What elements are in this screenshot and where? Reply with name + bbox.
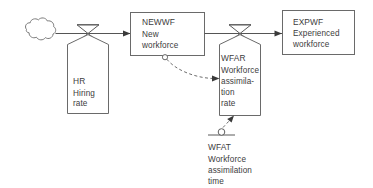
constant-label-wfat-name-line3: time xyxy=(208,177,224,187)
stock-label-newwf-code: NEWWF xyxy=(142,17,175,27)
rate-label-hr-name-line2: rate xyxy=(73,99,88,109)
stock-label-expwf-name-line2: workforce xyxy=(293,40,329,50)
rate-label-wfar-name-line2: assimila- xyxy=(221,77,254,87)
rate-label-wfar-code: WFAR xyxy=(221,53,246,63)
info-link-newwf-to-wfar[interactable] xyxy=(162,55,219,82)
stock-label-expwf-code: EXPWF xyxy=(293,17,323,27)
rate-label-wfar-name-line3: tion xyxy=(221,88,235,98)
stock-label-newwf-name-line2: workforce xyxy=(142,41,178,51)
rate-label-hr-code: HR xyxy=(73,76,85,86)
stock-flow-diagram: HR Hiring rate NEWWF New workforce EXPWF… xyxy=(0,0,373,188)
constant-label-wfat-name-line1: Workforce xyxy=(208,155,246,165)
info-link-wfat-to-wfar[interactable] xyxy=(223,116,234,128)
flow-hiring[interactable] xyxy=(56,30,131,36)
stock-label-newwf-name-line1: New xyxy=(142,30,159,40)
constant-wfat[interactable] xyxy=(208,129,235,136)
rate-label-wfar-name-line1: Workforce xyxy=(221,66,259,76)
rate-label-wfar-name-line4: rate xyxy=(221,99,236,109)
constant-label-wfat-name-line2: assimilation xyxy=(208,166,252,176)
constant-label-wfat-code: WFAT xyxy=(208,142,231,152)
rate-label-hr-name-line1: Hiring xyxy=(73,89,95,99)
source-cloud[interactable] xyxy=(26,18,56,40)
stock-label-expwf-name-line1: Experienced xyxy=(293,29,340,39)
